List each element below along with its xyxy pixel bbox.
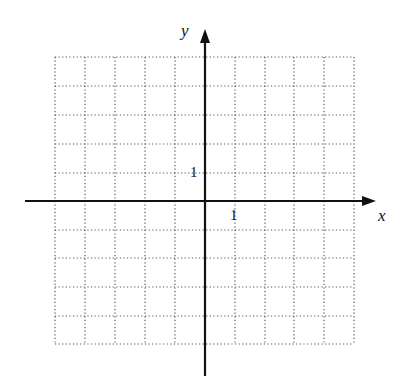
y-axis-label: y [181,22,189,39]
y-unit-tick-label: 1 [190,165,198,180]
y-axis-arrow-icon [200,29,210,43]
coordinate-plane [0,0,409,389]
x-axis-label: x [378,207,386,224]
x-unit-tick-label: 1 [230,208,238,223]
x-axis-arrow-icon [362,196,376,206]
y-axis [200,29,210,376]
x-axis [25,196,376,206]
